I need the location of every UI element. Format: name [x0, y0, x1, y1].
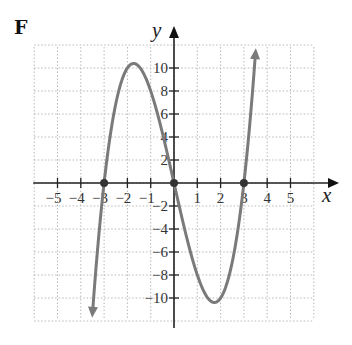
curve-arrow-up-icon: [250, 48, 260, 59]
x-tick-label: 2: [217, 190, 225, 206]
y-tick-label: 10: [153, 60, 168, 76]
x-tick-label: −2: [115, 190, 131, 206]
y-tick-label: −10: [145, 290, 168, 306]
x-axis-label: x: [321, 183, 332, 207]
curve-arrow-down-icon: [88, 306, 98, 317]
y-tick-label: 6: [161, 106, 169, 122]
function-graph: F −5−4−3−2−112345108642−2−4−6−8−10 x y: [0, 0, 352, 345]
x-tick-label: 5: [287, 190, 295, 206]
y-tick-label: −2: [152, 198, 168, 214]
y-tick-label: −6: [152, 244, 168, 260]
x-tick-label: 1: [194, 190, 202, 206]
y-tick-label: −4: [152, 221, 168, 237]
x-tick-label: −3: [92, 190, 108, 206]
intercept-point: [240, 179, 248, 187]
y-axis-label: y: [150, 18, 162, 42]
x-tick-label: 4: [263, 190, 271, 206]
intercept-point: [100, 179, 108, 187]
y-tick-label: −8: [152, 267, 168, 283]
y-axis-arrow-icon: [169, 26, 179, 38]
x-tick-label: −4: [69, 190, 85, 206]
x-tick-label: −5: [46, 190, 62, 206]
panel-label: F: [14, 16, 28, 38]
intercept-point: [170, 179, 178, 187]
axes: [33, 26, 339, 328]
y-tick-label: 8: [161, 83, 169, 99]
